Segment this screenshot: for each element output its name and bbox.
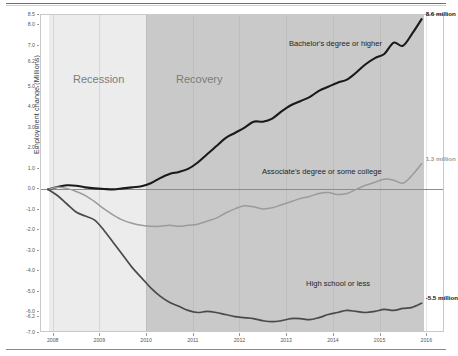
highschool-inline-label: High school or less (306, 279, 370, 288)
x-tick-mark (380, 333, 381, 336)
header-rule-top (6, 3, 446, 4)
x-tick-label: 2010 (140, 337, 152, 343)
associates-inline-label: Associate's degree or some college (262, 167, 382, 176)
y-tick-label: 5.0 (15, 84, 39, 89)
y-tick-label: 1.0 (15, 166, 39, 171)
footer-rule (6, 349, 446, 350)
y-tick-label: -1.0 (15, 207, 39, 212)
x-tick-label: 2009 (94, 337, 106, 343)
y-tick-label: 7.0 (15, 43, 39, 48)
x-tick-mark (426, 333, 427, 336)
y-tick-label: 8.0 (15, 22, 39, 27)
endpoint-label: 8.6 million (426, 10, 456, 17)
x-tick-mark (99, 333, 100, 336)
y-tick-label: 2.0 (15, 145, 39, 150)
y-tick-label: 6.2 (15, 59, 39, 64)
x-tick-mark (193, 333, 194, 336)
x-tick-label: 2011 (187, 337, 198, 343)
endpoint-label: -5.5 million (426, 294, 458, 301)
y-tick-label: -2.0 (15, 227, 39, 232)
y-tick-label: -4.0 (15, 268, 39, 273)
y-tick-label: -3.0 (15, 248, 39, 253)
endpoint-label: 1.3 million (426, 155, 456, 162)
series-lines (41, 15, 445, 333)
y-tick-label: -6.2 (15, 314, 39, 319)
x-tick-mark (53, 333, 54, 336)
x-tick-label: 2014 (327, 337, 339, 343)
y-tick-label: -7.0 (15, 330, 39, 335)
x-tick-label: 2013 (280, 337, 292, 343)
x-tick-mark (146, 333, 147, 336)
plot-area: RecessionRecovery8.58.07.06.25.04.03.02.… (40, 14, 444, 332)
x-tick-mark (333, 333, 334, 336)
y-tick-label: -5.0 (15, 289, 39, 294)
y-tick-label: 3.0 (15, 125, 39, 130)
header-rule-top-secondary (6, 5, 446, 6)
x-tick-label: 2012 (234, 337, 246, 343)
x-tick-mark (286, 333, 287, 336)
x-tick-label: 2015 (374, 337, 386, 343)
y-tick-label: 0.0 (15, 186, 39, 191)
x-tick-mark (239, 333, 240, 336)
x-tick-label: 2008 (47, 337, 59, 343)
x-tick-label: 2016 (421, 337, 433, 343)
y-tick-label: 4.0 (15, 104, 39, 109)
bachelors-inline-label: Bachelor's degree or higher (289, 39, 382, 48)
y-tick-label: 8.5 (15, 12, 39, 17)
